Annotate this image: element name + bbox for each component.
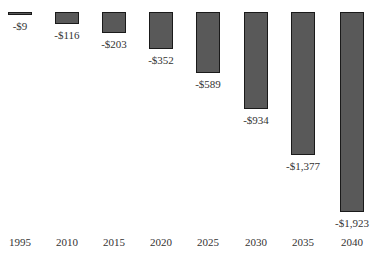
bar-2015: [102, 12, 126, 33]
x-tick-label-2030: 2030: [236, 236, 276, 248]
x-tick-label-2010: 2010: [47, 236, 87, 248]
bar-2040: [340, 12, 364, 212]
value-label-2015: -$203: [84, 38, 144, 50]
x-tick-label-1995: 1995: [0, 236, 40, 248]
value-label-2030: -$934: [226, 114, 286, 126]
x-tick-label-2015: 2015: [94, 236, 134, 248]
x-tick-label-2040: 2040: [332, 236, 372, 248]
value-label-2035: -$1,377: [273, 160, 333, 172]
value-label-2020: -$352: [131, 54, 191, 66]
bar-2030: [244, 12, 268, 109]
x-tick-label-2035: 2035: [283, 236, 323, 248]
bar-2010: [55, 12, 79, 24]
value-label-2025: -$589: [178, 78, 238, 90]
bar-2035: [291, 12, 315, 155]
bar-2025: [196, 12, 220, 73]
x-tick-label-2020: 2020: [141, 236, 181, 248]
value-label-2040: -$1,923: [322, 217, 374, 229]
x-tick-label-2025: 2025: [188, 236, 228, 248]
bar-1995: [8, 12, 32, 15]
bar-2020: [149, 12, 173, 49]
